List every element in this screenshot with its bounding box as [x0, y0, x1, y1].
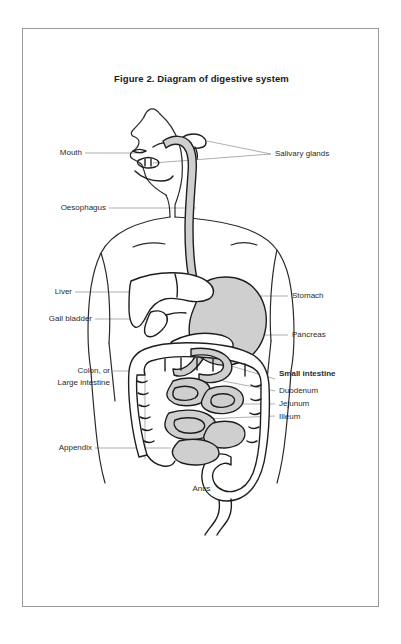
rectum-anus-shape — [205, 499, 231, 535]
label-salivary-glands: Salivary glands — [275, 148, 329, 159]
label-jejunum: Jejunum — [279, 398, 309, 409]
label-oesophagus: Oesophagus — [26, 202, 106, 213]
figure-panel: Figure 2. Diagram of digestive system — [22, 28, 379, 607]
label-gall-bladder: Gall bladder — [26, 313, 92, 324]
label-pancreas: Pancreas — [292, 329, 326, 340]
small-intestine-shape — [165, 348, 245, 465]
label-colon-line-2: Large intestine — [26, 377, 110, 388]
label-colon-line-1: Colon, or — [26, 365, 110, 376]
label-illeum: Illeum — [279, 411, 300, 422]
label-appendix: Appendix — [26, 442, 92, 453]
label-mouth: Mouth — [26, 147, 82, 158]
oesophagus-shape — [163, 136, 199, 291]
label-stomach: Stomach — [292, 290, 324, 301]
label-duodenum: Duodenum — [279, 385, 318, 396]
label-anus: Anus — [23, 483, 379, 494]
label-small-intestine: Small intestine — [279, 368, 335, 379]
appendix-shape — [147, 455, 175, 466]
label-liver: Liver — [26, 286, 72, 297]
gall-bladder-shape — [145, 311, 186, 337]
